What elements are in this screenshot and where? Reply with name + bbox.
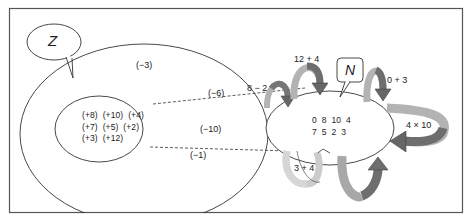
diagram-canvas: Z N (−3) (−6) (−10) (−1) (+8) (+10) (+4)…	[0, 0, 472, 223]
z-label-minus-10: (−10)	[200, 125, 221, 134]
z-inner-set: (+8) (+10) (+4) (+7) (+5) (+2) (+3) (+12…	[82, 111, 144, 146]
z-label-minus-3: (−3)	[136, 61, 152, 70]
z-label-minus-6: (−6)	[208, 89, 224, 98]
z-set-label: Z	[48, 33, 57, 48]
op-label-0-plus-3: 0 + 3	[387, 76, 407, 85]
op-label-8-minus-2: 8 − 2	[247, 84, 267, 93]
z-label-minus-1: (−1)	[190, 151, 206, 160]
z-inner-row: (+7) (+5) (+2)	[82, 123, 144, 132]
op-label-3-plus-4: 3 + 4	[294, 164, 314, 173]
n-row: 7 5 2 3	[312, 128, 351, 137]
z-inner-row: (+3) (+12)	[82, 134, 144, 143]
n-row: 0 8 10 4	[312, 116, 351, 125]
n-set-label: N	[345, 63, 355, 77]
diagram-graphics	[0, 0, 472, 223]
z-inner-row: (+8) (+10) (+4)	[82, 111, 144, 120]
op-label-12-plus-4: 12 + 4	[294, 55, 319, 64]
op-label-4-times-10: 4 × 10	[406, 121, 431, 130]
n-elements: 0 8 10 4 7 5 2 3	[312, 116, 351, 139]
